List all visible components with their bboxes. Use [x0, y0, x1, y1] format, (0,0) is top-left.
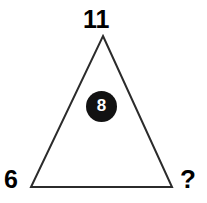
- bottom-left-number-label: 6: [4, 167, 18, 192]
- puzzle-figure: 11 6 ? 8: [0, 0, 207, 203]
- apex-number-label: 11: [83, 7, 109, 32]
- bottom-right-question-mark-label: ?: [180, 166, 196, 192]
- center-disc: 8: [86, 91, 117, 122]
- center-disc-number-label: 8: [97, 97, 106, 114]
